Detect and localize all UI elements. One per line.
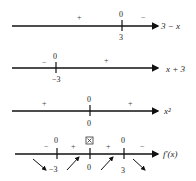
x-value-label: 0	[87, 163, 91, 172]
decreasing-arrow-icon	[33, 159, 46, 170]
zero-label: 0	[121, 136, 125, 145]
zero-label: 0	[54, 136, 58, 145]
x-value-label: 3	[119, 33, 123, 42]
sign-label: −	[141, 13, 146, 22]
increasing-arrow-icon	[101, 157, 113, 170]
x-value-label: 0	[87, 119, 91, 128]
sign-line-x-squared: 0 0 + + x²	[12, 95, 171, 128]
increasing-arrow-icon	[67, 157, 79, 170]
expression-label: x + 3	[165, 64, 186, 74]
sign-label: +	[77, 13, 82, 22]
zero-label: 0	[53, 52, 57, 61]
x-value-label: −3	[49, 165, 58, 174]
expression-label: x²	[163, 106, 171, 116]
zero-label: 0	[119, 10, 123, 19]
sign-line-3-minus-x: 0 3 + − 3 − x	[12, 10, 180, 42]
expression-label: 3 − x	[160, 21, 180, 31]
x-value-label: 3	[121, 166, 125, 175]
sign-label: −	[42, 58, 47, 67]
sign-chart: 0 3 + − 3 − x 0 −3 − + x + 3 0 0 + + x² …	[0, 0, 196, 181]
decreasing-arrow-icon	[133, 159, 145, 170]
sign-label: +	[128, 99, 133, 108]
sign-label: −	[44, 142, 49, 151]
sign-line-f-prime: 0 0 −3 0 3 − + + − f′(x)	[15, 136, 177, 175]
expression-label: f′(x)	[163, 149, 177, 159]
sign-label: +	[104, 56, 109, 65]
x-value-label: −3	[52, 75, 61, 84]
sign-line-x-plus-3: 0 −3 − + x + 3	[12, 52, 186, 84]
sign-label: +	[106, 142, 111, 151]
sign-label: −	[140, 142, 145, 151]
sign-label: +	[71, 142, 76, 151]
sign-label: +	[42, 99, 47, 108]
zero-label: 0	[87, 95, 91, 104]
